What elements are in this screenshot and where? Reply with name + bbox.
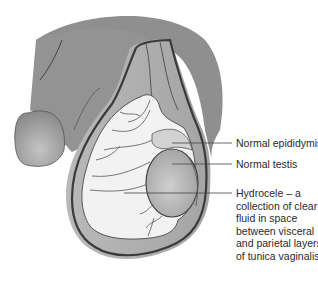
label-epididymis: Normal epididymis xyxy=(236,137,318,150)
label-hydrocele-line-3: fluid in space xyxy=(236,212,318,225)
label-hydrocele-line-2: collection of clear xyxy=(236,200,318,213)
label-hydrocele-line-5: and parietal layers xyxy=(236,237,318,250)
label-hydrocele-line-6: of tunica vaginalis xyxy=(236,250,318,263)
label-testis: Normal testis xyxy=(236,158,297,171)
glans xyxy=(15,111,65,166)
label-hydrocele: Hydrocele – a collection of clear fluid … xyxy=(236,187,318,263)
label-hydrocele-line-4: between visceral xyxy=(236,225,318,238)
testis xyxy=(146,149,198,217)
label-hydrocele-line-1: Hydrocele – a xyxy=(236,187,318,200)
